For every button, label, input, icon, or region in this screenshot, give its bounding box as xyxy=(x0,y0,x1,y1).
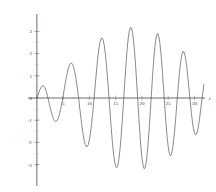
y-tick-label: 3 xyxy=(29,29,32,34)
y-tick-label: 2 xyxy=(29,51,32,56)
x-tick-label: 20 xyxy=(139,101,145,106)
chart-svg: -3-2-1123051015202530t xyxy=(0,0,216,192)
x-tick-label: 30 xyxy=(192,101,198,106)
x-axis-label: t xyxy=(209,96,211,101)
y-tick-label: -3 xyxy=(28,163,33,168)
label-layer: -3-2-1123051015202530t xyxy=(28,29,211,167)
chart-container: -3-2-1123051015202530t xyxy=(0,0,216,192)
y-tick-label: 1 xyxy=(29,74,32,79)
x-tick-label: 5 xyxy=(62,101,65,106)
x-tick-label: 25 xyxy=(166,101,172,106)
y-tick-label: -1 xyxy=(28,118,33,123)
x-tick-label: 10 xyxy=(87,101,93,106)
y-tick-label: -2 xyxy=(28,140,33,145)
axis-layer xyxy=(28,14,205,186)
origin-label: 0 xyxy=(29,96,32,101)
x-tick-label: 15 xyxy=(113,101,119,106)
